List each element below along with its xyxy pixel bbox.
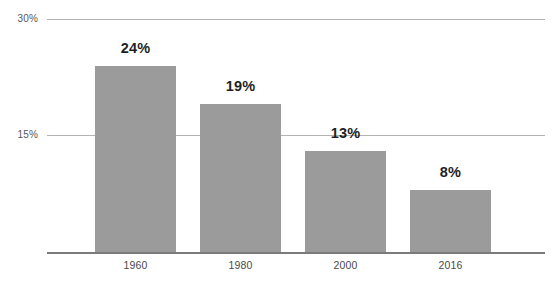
x-axis-line	[47, 252, 545, 254]
bar-1960[interactable]	[95, 66, 176, 252]
bar-value-1960: 24%	[95, 40, 176, 56]
bar-1980[interactable]	[200, 104, 281, 252]
bar-value-2000: 13%	[305, 125, 386, 141]
x-axis-tick-2000: 2000	[305, 259, 386, 271]
bar-value-2016: 8%	[410, 164, 491, 180]
bar-value-1980: 19%	[200, 78, 281, 94]
x-axis-tick-2016: 2016	[410, 259, 491, 271]
x-axis-tick-1980: 1980	[200, 259, 281, 271]
bar-chart: 30% 15% 24% 19% 13% 8% 1960 1980 2000 20…	[0, 0, 555, 285]
x-axis-tick-1960: 1960	[95, 259, 176, 271]
bar-2016[interactable]	[410, 190, 491, 252]
bar-2000[interactable]	[305, 151, 386, 252]
bar-series: 24% 19% 13% 8%	[0, 0, 555, 285]
